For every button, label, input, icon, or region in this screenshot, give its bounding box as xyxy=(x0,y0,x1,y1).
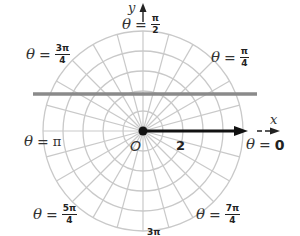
x-axis-arrow xyxy=(257,128,280,135)
angle-label-0: θ = 0 xyxy=(246,137,285,152)
origin-point xyxy=(139,127,148,136)
polar-diagram: y x O 2 θ = π 2 θ = 3π 4 θ = π 4 θ = π θ xyxy=(0,0,300,236)
fraction: π 2 xyxy=(151,14,160,35)
vector-length-label: 2 xyxy=(176,138,185,153)
angle-label-pi: θ = π xyxy=(24,134,61,149)
polar-grid xyxy=(0,0,300,236)
angle-label-pi-over-2: θ = π 2 xyxy=(122,14,160,35)
fraction: π 4 xyxy=(240,47,249,68)
fraction: 7π 4 xyxy=(225,204,240,225)
x-axis-label: x xyxy=(270,112,277,127)
fraction: 3π 4 xyxy=(55,44,70,65)
fraction: 3π xyxy=(146,228,161,236)
angle-label-pi-over-4: θ = π 4 xyxy=(211,47,249,68)
angle-label-7pi-over-4: θ = 7π 4 xyxy=(196,204,240,225)
fraction: 5π 4 xyxy=(62,204,77,225)
angle-label-5pi-over-4: θ = 5π 4 xyxy=(33,204,77,225)
origin-label: O xyxy=(130,138,141,154)
y-axis-label: y xyxy=(128,0,135,15)
angle-label-3pi-over-4: θ = 3π 4 xyxy=(26,44,70,65)
vector-arrow xyxy=(143,126,248,136)
angle-label-3pi-over-2-partial: 3π xyxy=(146,228,161,236)
